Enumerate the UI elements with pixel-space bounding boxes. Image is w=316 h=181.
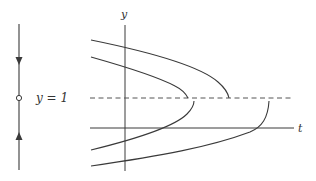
y-axis-label: y (120, 8, 128, 21)
solution-curve-lower-outer (91, 101, 269, 166)
solution-curve-lower-inner (91, 101, 194, 150)
solution-curve-upper-inner (91, 57, 188, 98)
phase-line (16, 24, 23, 170)
solution-curve-upper-outer (91, 40, 229, 98)
slope-field-diagram: y = 1 y t (0, 0, 316, 181)
down-arrow-icon (16, 57, 23, 65)
equilibrium-label: y = 1 (35, 91, 68, 105)
t-axis-label: t (298, 122, 303, 135)
equilibrium-point-icon (16, 95, 21, 100)
up-arrow-icon (16, 132, 23, 140)
